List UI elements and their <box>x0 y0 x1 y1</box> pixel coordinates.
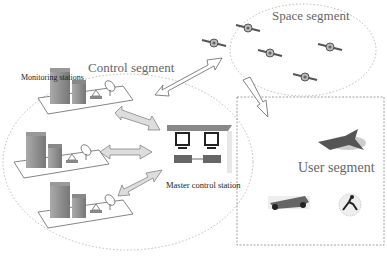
satellite-icon <box>293 73 317 81</box>
satellite-icon <box>236 24 260 32</box>
race-car-icon <box>268 196 310 210</box>
diagram-canvas <box>0 0 387 260</box>
satellite-icon <box>258 49 282 57</box>
master-control-station-label: Master control station <box>166 180 241 190</box>
monitoring-station-2 <box>14 132 109 178</box>
control-segment-label: Control segment <box>88 60 174 76</box>
space-user-arrow <box>243 77 268 117</box>
master-control-station <box>167 125 232 173</box>
satellite-icon <box>202 39 226 47</box>
satellite-icon <box>318 43 342 51</box>
space-segment-label: Space segment <box>272 8 350 24</box>
user-segment-label: User segment <box>298 160 375 176</box>
station1-master-arrow <box>115 106 160 130</box>
person-icon <box>339 194 361 216</box>
monitoring-station-3 <box>38 182 133 228</box>
monitoring-stations-label: Monitoring stations <box>21 73 84 82</box>
station3-master-arrow <box>118 170 162 196</box>
aircraft-icon <box>318 129 366 150</box>
station2-master-arrow <box>100 145 152 159</box>
